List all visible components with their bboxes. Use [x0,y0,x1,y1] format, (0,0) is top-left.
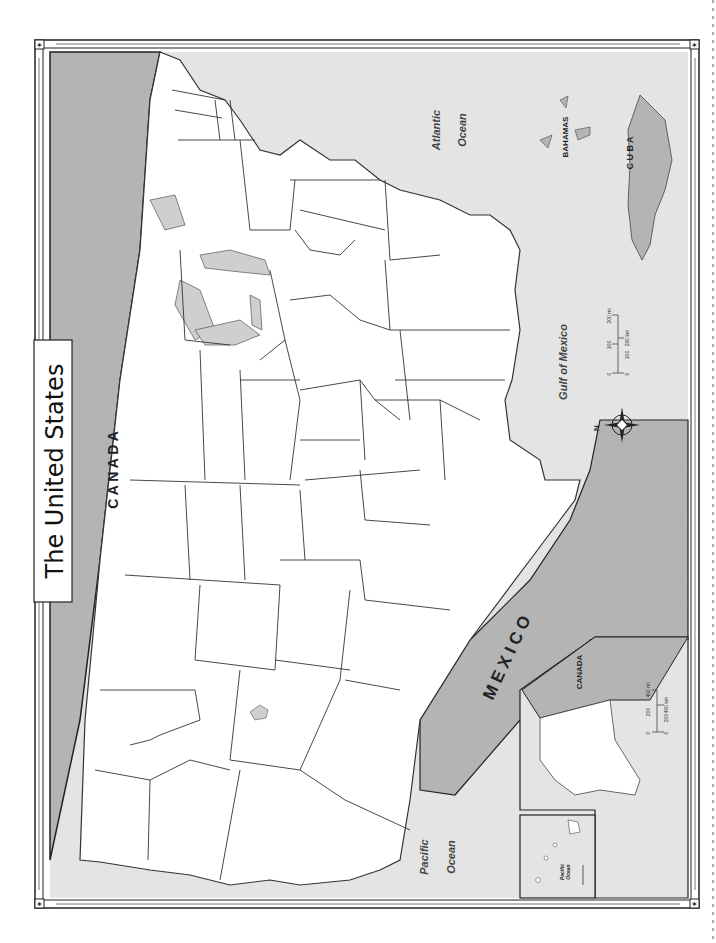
svg-text:0: 0 [624,372,630,375]
svg-text:100: 100 [606,341,612,350]
label-hawaii-pacific-2: Ocean [565,864,571,879]
svg-text:200 km: 200 km [624,330,630,346]
title-box: The United States [34,340,72,602]
map-title: The United States [41,364,69,580]
svg-text:0: 0 [663,731,669,734]
label-canada: C A N A D A [105,431,121,509]
perforation-edge [712,0,714,943]
label-atlantic-ocean-2: Ocean [456,113,468,147]
hawaii-inset [520,815,595,898]
label-gulf-of-mexico: Gulf of Mexico [557,324,569,400]
label-compass-north: N [592,425,601,431]
svg-text:200: 200 [645,708,651,717]
svg-text:✶: ✶ [36,900,43,909]
label-alaska-canada: CANADA [575,654,584,689]
svg-text:0: 0 [606,372,612,375]
label-pacific-ocean-1: Pacific [418,839,430,874]
label-pacific-ocean-2: Ocean [445,840,457,874]
label-bahamas: BAHAMAS [561,116,570,158]
svg-text:400 km: 400 km [663,697,669,713]
map-area [50,52,688,898]
svg-text:✶: ✶ [691,900,698,909]
label-atlantic-ocean-1: Atlantic [430,110,442,151]
svg-text:✶: ✶ [36,41,43,50]
us-outline-map: ✶ ✶ ✶ ✶ [0,0,716,943]
svg-text:400 mi: 400 mi [645,682,651,697]
svg-text:100: 100 [624,351,630,360]
svg-text:0: 0 [645,731,651,734]
label-cuba: C U B A [625,136,635,170]
svg-text:200: 200 [663,714,669,723]
svg-text:✶: ✶ [691,41,698,50]
svg-text:200 mi: 200 mi [606,308,612,323]
